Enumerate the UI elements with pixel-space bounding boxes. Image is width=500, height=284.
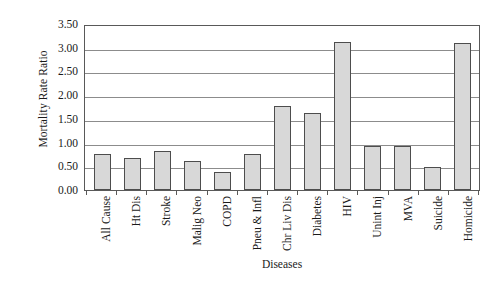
bar[interactable] [454, 43, 471, 190]
x-label-slot: MVA [388, 196, 418, 254]
x-axis-tick-mark [86, 191, 87, 195]
y-axis-tick-labels: 0.000.501.001.502.002.503.003.50 [28, 25, 82, 191]
bar[interactable] [184, 161, 201, 190]
x-axis-tick-mark [297, 191, 298, 195]
x-axis-tick-mark [207, 191, 208, 195]
x-axis-tick-label: Ht Dis [131, 196, 143, 226]
bar[interactable] [394, 146, 411, 190]
x-axis-tick-mark [267, 191, 268, 195]
x-axis-tick-label: Suicide [433, 196, 445, 231]
y-axis-tick-label: 0.50 [58, 162, 78, 174]
y-axis-tick-label: 3.00 [58, 43, 78, 55]
bar-slot [177, 26, 207, 190]
bar[interactable] [94, 154, 111, 190]
y-axis-tick-label: 2.00 [58, 90, 78, 102]
bar-slot [357, 26, 387, 190]
x-axis-tick-mark [146, 191, 147, 195]
x-axis-tick-mark [357, 191, 358, 195]
bar[interactable] [214, 172, 231, 190]
x-axis-tick-label: All Cause [101, 196, 113, 242]
x-label-slot: Stroke [146, 196, 176, 254]
bar-slot [117, 26, 147, 190]
x-axis-tick-label: Malig Neo [192, 196, 204, 246]
x-axis-tick-label: Pneu & Infl [252, 196, 264, 250]
bar[interactable] [274, 106, 291, 190]
bar-slot [327, 26, 357, 190]
plot-area [84, 25, 480, 191]
bar[interactable] [364, 146, 381, 190]
x-label-slot: COPD [207, 196, 237, 254]
y-axis-tick-label: 2.50 [58, 67, 78, 79]
bar[interactable] [424, 167, 441, 190]
x-axis-tick-label: HIV [342, 196, 354, 216]
bar-slot [297, 26, 327, 190]
x-axis-tick-label: Diabetes [312, 196, 324, 236]
chart-figure: Mortality Rate Ratio 0.000.501.001.502.0… [0, 0, 500, 284]
bar-series [85, 26, 479, 190]
x-axis-tick-mark [237, 191, 238, 195]
x-label-slot: Diabetes [297, 196, 327, 254]
x-axis-tick-mark [327, 191, 328, 195]
bar-slot [417, 26, 447, 190]
bar-slot [87, 26, 117, 190]
x-axis-tick-mark [448, 191, 449, 195]
y-axis-tick-label: 3.50 [58, 19, 78, 31]
bar-slot [447, 26, 477, 190]
bar[interactable] [244, 154, 261, 190]
x-axis-tick-mark [418, 191, 419, 195]
bar[interactable] [124, 158, 141, 190]
bar[interactable] [334, 42, 351, 190]
bar-slot [207, 26, 237, 190]
x-label-slot: Malig Neo [176, 196, 206, 254]
x-label-slot: Chr Liv Dis [267, 196, 297, 254]
x-axis-tick-label: Unint Inj [372, 196, 384, 238]
x-axis-tick-mark [176, 191, 177, 195]
x-label-slot: All Cause [86, 196, 116, 254]
x-label-slot: Pneu & Infl [237, 196, 267, 254]
x-label-slot: HIV [327, 196, 357, 254]
y-axis-tick-label: 0.00 [58, 185, 78, 197]
bar[interactable] [304, 113, 321, 190]
x-axis-tick-label: Stroke [161, 196, 173, 226]
y-axis-tick-label: 1.50 [58, 114, 78, 126]
bar-slot [267, 26, 297, 190]
x-axis-tick-mark [116, 191, 117, 195]
bar-slot [147, 26, 177, 190]
y-axis-tick-label: 1.00 [58, 138, 78, 150]
x-label-slot: Suicide [418, 196, 448, 254]
bar-slot [387, 26, 417, 190]
x-label-slot: Homicide [448, 196, 478, 254]
bar[interactable] [154, 151, 171, 190]
bar-slot [237, 26, 267, 190]
x-axis-tick-label: COPD [222, 196, 234, 227]
x-axis-tick-label: Chr Liv Dis [282, 196, 294, 251]
x-label-slot: Ht Dis [116, 196, 146, 254]
x-axis-tick-label: Homicide [463, 196, 475, 241]
x-axis-tick-label: MVA [403, 196, 415, 221]
x-axis-tick-mark [478, 191, 479, 195]
x-axis-title: Diseases [84, 258, 480, 270]
x-label-slot: Unint Inj [357, 196, 387, 254]
x-axis-tick-mark [388, 191, 389, 195]
x-axis-tick-labels: All CauseHt DisStrokeMalig NeoCOPDPneu &… [84, 196, 480, 254]
